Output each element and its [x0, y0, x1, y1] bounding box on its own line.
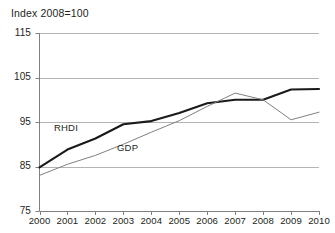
series-line-gdp [40, 93, 320, 175]
series-line-rhdi [40, 89, 320, 167]
data-series-group [40, 89, 320, 175]
series-label-gdp: GDP [117, 142, 138, 153]
gridlines [40, 34, 320, 168]
y-axis-ticks [36, 34, 40, 212]
y-tick-label: 85 [5, 160, 31, 171]
series-label-rhdi: RHDI [54, 122, 78, 133]
x-tick-label: 2010 [302, 215, 335, 226]
y-tick-label: 105 [5, 71, 31, 82]
y-tick-label: 115 [5, 27, 31, 38]
y-tick-label: 75 [5, 205, 31, 216]
y-tick-label: 95 [5, 116, 31, 127]
